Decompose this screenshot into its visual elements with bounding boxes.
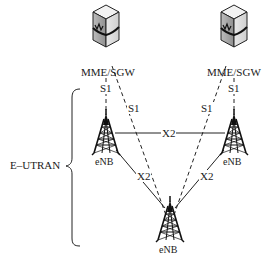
mme-sgw-label-right: MME/SGW xyxy=(207,66,261,78)
link-label-x2: X2 xyxy=(161,127,176,139)
eutran-brace xyxy=(66,89,80,246)
server-icon xyxy=(93,5,119,47)
eutran-label: E–UTRAN xyxy=(10,159,60,171)
server-icon xyxy=(221,5,247,47)
enb-label-left: eNB xyxy=(95,156,113,168)
link-label-x2: X2 xyxy=(199,170,214,182)
link-label-s1: S1 xyxy=(127,102,141,114)
enb-label-right: eNB xyxy=(223,156,241,168)
s1-links xyxy=(106,66,234,218)
mme-sgw-label-left: MME/SGW xyxy=(81,66,135,78)
link-label-s1: S1 xyxy=(227,82,241,94)
network-diagram-canvas xyxy=(0,0,270,268)
cell-tower-icon xyxy=(220,109,248,155)
link-label-x2: X2 xyxy=(136,170,151,182)
link-label-s1: S1 xyxy=(99,82,113,94)
cell-tower-icon xyxy=(92,109,120,155)
enb-label-bottom: eNB xyxy=(159,244,177,256)
link-s1-mme1-enb-bottom xyxy=(112,66,167,218)
link-label-s1: S1 xyxy=(200,102,214,114)
link-s1-mme2-enb-bottom xyxy=(173,66,226,218)
